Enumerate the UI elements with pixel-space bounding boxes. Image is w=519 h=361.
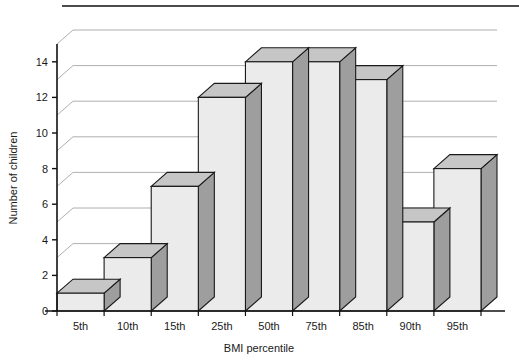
bar-side-face bbox=[387, 66, 403, 311]
y-tick-label: 12 bbox=[36, 91, 48, 103]
bar-front-face bbox=[57, 293, 104, 311]
x-tick-label-10th: 10th bbox=[117, 320, 138, 332]
bar-side-face bbox=[340, 48, 356, 311]
x-tick-label-15th: 15th bbox=[164, 320, 185, 332]
bar-side-face bbox=[245, 83, 261, 311]
y-tick-label: 8 bbox=[42, 163, 48, 175]
y-tick-label: 6 bbox=[42, 198, 48, 210]
chart-svg: 02468101214 5th10th15th25th50th75th85th9… bbox=[0, 0, 519, 361]
bar-side-face bbox=[293, 48, 309, 311]
x-axis-title: BMI percentile bbox=[224, 342, 294, 354]
x-tick-label-25th: 25th bbox=[211, 320, 232, 332]
bar-side-face bbox=[434, 208, 450, 311]
y-tick-label: 4 bbox=[42, 234, 48, 246]
y-axis-title: Number of children bbox=[7, 132, 19, 225]
bmi-percentile-bar-chart: 02468101214 5th10th15th25th50th75th85th9… bbox=[0, 0, 519, 361]
x-tick-label-75th: 75th bbox=[305, 320, 326, 332]
x-tick-label-50th: 50th bbox=[258, 320, 279, 332]
x-tick-label-85th: 85th bbox=[353, 320, 374, 332]
y-tick-label: 14 bbox=[36, 56, 48, 68]
bar-side-face bbox=[481, 155, 497, 311]
bar-side-face bbox=[198, 172, 214, 311]
y-tick-label: 2 bbox=[42, 269, 48, 281]
y-tick-label: 10 bbox=[36, 127, 48, 139]
x-tick-label-5th: 5th bbox=[73, 320, 88, 332]
x-tick-label-90th: 90th bbox=[400, 320, 421, 332]
y-tick-label: 0 bbox=[42, 305, 48, 317]
x-tick-label-95th: 95th bbox=[447, 320, 468, 332]
